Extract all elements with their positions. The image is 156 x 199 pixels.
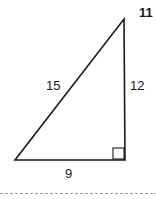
right-triangle	[15, 19, 125, 160]
problem-number-label: 11	[139, 5, 153, 20]
hypotenuse-label: 15	[46, 78, 60, 93]
vertical-leg-label: 12	[130, 78, 144, 93]
horizontal-leg-label: 9	[65, 166, 72, 181]
diagram-canvas: 11 15 12 9	[0, 0, 156, 199]
right-angle-marker	[113, 148, 124, 159]
